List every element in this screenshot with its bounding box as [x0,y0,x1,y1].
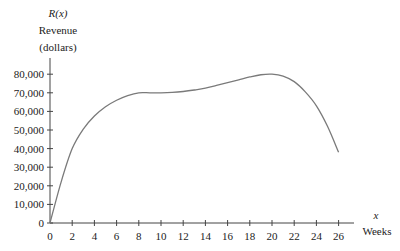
x-tick-label: 2 [69,230,75,242]
y-tick-label: 20,000 [14,180,45,192]
x-axis-label: Weeks [362,225,391,237]
y-tick-label: 30,000 [14,161,45,173]
x-tick-label: 14 [200,230,212,242]
x-axis-variable: x [373,209,379,221]
x-tick-label: 22 [289,230,300,242]
x-tick-label: 16 [222,230,234,242]
x-tick-label: 20 [267,230,279,242]
y-axis-unit: (dollars) [39,41,77,54]
revenue-curve [50,74,339,223]
x-tick-label: 18 [244,230,256,242]
revenue-chart: 010,00020,00030,00040,00050,00060,00070,… [0,0,400,251]
x-tick-label: 10 [156,230,168,242]
y-axis-variable: R(x) [48,7,68,20]
y-tick-label: 0 [39,217,45,229]
x-tick-label: 4 [92,230,98,242]
y-axis-label: Revenue [39,24,78,36]
y-tick-label: 70,000 [14,87,45,99]
x-tick-label: 24 [311,230,323,242]
x-tick-label: 26 [333,230,345,242]
y-tick-label: 40,000 [14,143,45,155]
x-tick-label: 12 [178,230,189,242]
x-tick-label: 6 [114,230,120,242]
y-tick-label: 50,000 [14,124,45,136]
x-tick-label: 0 [47,230,53,242]
y-tick-label: 80,000 [14,68,45,80]
axes [50,58,354,223]
y-axis-ticks: 010,00020,00030,00040,00050,00060,00070,… [14,68,53,229]
y-tick-label: 60,000 [14,105,45,117]
y-tick-label: 10,000 [14,198,45,210]
x-tick-label: 8 [136,230,142,242]
